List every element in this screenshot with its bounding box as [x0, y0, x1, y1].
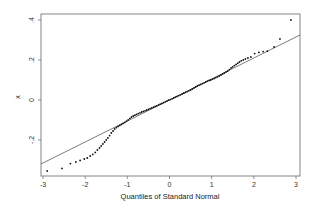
data-point: [127, 119, 129, 121]
data-point: [153, 106, 155, 108]
data-point: [75, 161, 77, 163]
data-point: [156, 105, 158, 107]
data-point: [144, 110, 146, 112]
data-point: [290, 19, 292, 21]
data-point: [164, 101, 166, 103]
data-point: [186, 91, 188, 93]
data-point: [245, 58, 247, 60]
data-point: [168, 99, 170, 101]
data-point: [183, 92, 185, 94]
data-point: [131, 116, 133, 118]
data-point: [83, 158, 85, 160]
data-point: [173, 97, 175, 99]
data-point: [61, 168, 63, 170]
data-point: [119, 125, 121, 127]
data-point: [201, 83, 203, 85]
data-point: [109, 135, 111, 137]
data-point: [148, 109, 150, 111]
data-point: [258, 52, 260, 54]
data-point: [129, 118, 131, 120]
data-point: [70, 163, 72, 165]
data-point: [115, 127, 117, 129]
data-point: [205, 81, 207, 83]
data-point: [176, 96, 178, 98]
data-point: [112, 130, 114, 132]
y-axis-ticks: -.20.2.4: [28, 17, 41, 144]
data-point: [122, 123, 124, 125]
data-point: [181, 93, 183, 95]
y-axis-label: x: [13, 95, 22, 99]
x-tick-label: 3: [294, 181, 298, 188]
data-point: [146, 109, 148, 111]
data-point: [200, 84, 202, 86]
data-point: [203, 82, 205, 84]
data-point: [178, 95, 180, 97]
data-point: [117, 126, 119, 128]
data-point: [126, 120, 128, 122]
y-tick-label: .4: [28, 17, 35, 23]
data-point: [232, 66, 234, 68]
data-point: [159, 103, 161, 105]
data-point: [220, 74, 222, 76]
data-point: [198, 84, 200, 86]
data-point: [100, 145, 102, 147]
data-point: [254, 53, 256, 55]
data-point: [190, 89, 192, 91]
y-tick-label: 0: [28, 98, 35, 102]
x-tick-label: -2: [82, 181, 88, 188]
data-point: [169, 99, 171, 101]
x-tick-label: -3: [40, 181, 46, 188]
data-point: [105, 139, 107, 141]
data-point: [142, 111, 144, 113]
data-point: [86, 157, 88, 159]
data-point: [195, 86, 197, 88]
data-point: [212, 78, 214, 80]
data-points: [46, 19, 292, 172]
data-point: [124, 122, 126, 124]
data-point: [247, 57, 249, 59]
data-point: [262, 51, 264, 53]
data-point: [266, 50, 268, 52]
data-point: [235, 64, 237, 66]
data-point: [208, 80, 210, 82]
data-point: [154, 106, 156, 108]
data-point: [188, 90, 190, 92]
data-point: [99, 147, 101, 149]
data-point: [191, 88, 193, 90]
data-point: [158, 104, 160, 106]
data-point: [114, 128, 116, 130]
data-point: [79, 160, 81, 162]
x-tick-label: 1: [210, 181, 214, 188]
data-point: [196, 85, 198, 87]
data-point: [279, 38, 281, 40]
data-point: [185, 92, 187, 94]
data-point: [141, 111, 143, 113]
data-point: [218, 75, 220, 77]
y-tick-label: .2: [28, 57, 35, 63]
data-point: [217, 76, 219, 78]
data-point: [151, 107, 153, 109]
data-point: [273, 46, 275, 48]
data-point: [136, 114, 138, 116]
x-tick-label: -1: [124, 181, 130, 188]
data-point: [222, 73, 224, 75]
data-point: [239, 61, 241, 63]
data-point: [89, 155, 91, 157]
data-point: [225, 71, 227, 73]
data-point: [132, 115, 134, 117]
plot-frame: [41, 14, 300, 176]
data-point: [166, 100, 168, 102]
data-point: [107, 137, 109, 139]
data-point: [227, 70, 229, 72]
x-axis-ticks: -3-2-10123: [40, 176, 298, 188]
data-point: [207, 80, 209, 82]
data-point: [94, 152, 96, 154]
data-point: [213, 78, 215, 80]
data-point: [110, 132, 112, 134]
data-point: [250, 56, 252, 58]
data-point: [139, 112, 141, 114]
data-point: [104, 141, 106, 143]
data-point: [161, 103, 163, 105]
data-point: [92, 154, 94, 156]
data-point: [242, 59, 244, 61]
